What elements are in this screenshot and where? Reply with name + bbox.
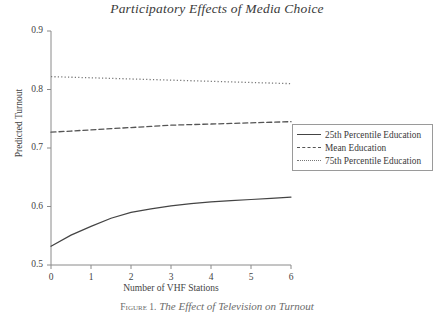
legend-item-75th-percentile: 75th Percentile Education — [296, 154, 430, 167]
tick-marks — [47, 31, 291, 269]
figure-caption: Figure 1. The Effect of Television on Tu… — [0, 300, 434, 312]
legend-swatch-solid-line-icon — [296, 130, 322, 140]
y-tick-label: 0.5 — [11, 259, 43, 269]
series-line — [51, 197, 291, 246]
y-tick-label: 0.6 — [11, 201, 43, 211]
legend-swatch-dotted-line-icon — [296, 156, 322, 166]
legend-swatch-dashed-line-icon — [296, 143, 322, 153]
legend-label: 25th Percentile Education — [325, 130, 421, 140]
series-line — [51, 77, 291, 84]
legend-item-25th-percentile: 25th Percentile Education — [296, 128, 430, 141]
axis-lines — [51, 31, 291, 265]
x-tick-label: 3 — [159, 272, 183, 282]
legend-item-mean-education: Mean Education — [296, 141, 430, 154]
x-tick-label: 0 — [39, 272, 63, 282]
x-tick-label: 5 — [239, 272, 263, 282]
y-axis-label: Predicted Turnout — [14, 58, 24, 188]
x-tick-label: 6 — [279, 272, 303, 282]
x-tick-label: 1 — [79, 272, 103, 282]
x-tick-label: 2 — [119, 272, 143, 282]
data-series-layer — [51, 77, 291, 247]
chart-legend: 25th Percentile Education Mean Education… — [292, 124, 433, 171]
legend-label: 75th Percentile Education — [325, 156, 421, 166]
figure-caption-text: The Effect of Television on Turnout — [159, 300, 314, 312]
y-tick-label: 0.7 — [11, 142, 43, 152]
x-tick-label: 4 — [199, 272, 223, 282]
series-line — [51, 122, 291, 133]
y-tick-label: 0.9 — [11, 25, 43, 35]
legend-label: Mean Education — [325, 143, 386, 153]
x-axis-label: Number of VHF Stations — [51, 283, 291, 293]
y-tick-label: 0.8 — [11, 84, 43, 94]
figure-number: Figure 1. — [120, 302, 156, 312]
